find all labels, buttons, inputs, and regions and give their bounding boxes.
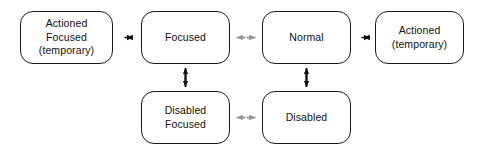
state-node-focused[interactable]: Focused [141,11,230,64]
state-node-disabled[interactable]: Disabled [262,91,351,144]
state-label-line: Focused [46,31,87,45]
state-node-disabled-focused[interactable]: Disabled Focused [141,91,230,144]
state-label-line: Disabled [286,111,328,125]
state-label-line: (temporary) [392,38,447,52]
state-diagram: Focused : dashed black, horizontal --> N… [0,0,483,163]
state-label-line: Focused [165,118,206,132]
state-label-line: Normal [289,31,323,45]
state-label-line: Actioned [46,17,88,31]
state-node-normal[interactable]: Normal [262,11,351,64]
state-node-actioned[interactable]: Actioned (temporary) [375,11,464,64]
state-label-line: Disabled [165,104,207,118]
state-label-line: (temporary) [39,44,94,58]
state-node-actioned-focused[interactable]: Actioned Focused (temporary) [20,11,113,64]
state-label-line: Focused [165,31,206,45]
state-label-line: Actioned [399,24,441,38]
